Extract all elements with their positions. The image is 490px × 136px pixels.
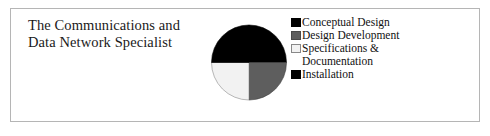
- legend-item-installation: Installation: [291, 68, 471, 81]
- title-line-1: The Communications and: [28, 17, 228, 34]
- pie-slice-installation: [212, 25, 250, 63]
- legend-item-conceptual-design: Conceptual Design: [291, 16, 471, 29]
- legend-item-design-development: Design Development: [291, 29, 471, 42]
- pie-slice-specifications-documentation: [212, 63, 250, 101]
- slide-frame: The Communications and Data Network Spec…: [10, 8, 480, 122]
- pie-slice-design-development: [249, 63, 287, 101]
- pie-chart: [210, 18, 288, 107]
- legend-label-design-development: Design Development: [302, 29, 399, 42]
- legend-item-specifications-documentation: Specifications & Documentation: [291, 42, 471, 68]
- legend-swatch-icon-conceptual-design: [291, 18, 301, 27]
- legend-label-conceptual-design: Conceptual Design: [302, 16, 390, 29]
- pie-slice-conceptual-design: [249, 25, 287, 63]
- legend-label-specifications-documentation: Specifications & Documentation: [302, 42, 379, 68]
- legend-swatch-icon-installation: [291, 70, 301, 79]
- chart-legend: Conceptual Design Design Development Spe…: [291, 16, 471, 81]
- page-title: The Communications and Data Network Spec…: [28, 17, 228, 51]
- title-line-2: Data Network Specialist: [28, 34, 228, 51]
- legend-label-installation: Installation: [302, 68, 354, 81]
- legend-swatch-icon-design-development: [291, 31, 301, 40]
- legend-swatch-icon-specifications-documentation: [291, 44, 301, 53]
